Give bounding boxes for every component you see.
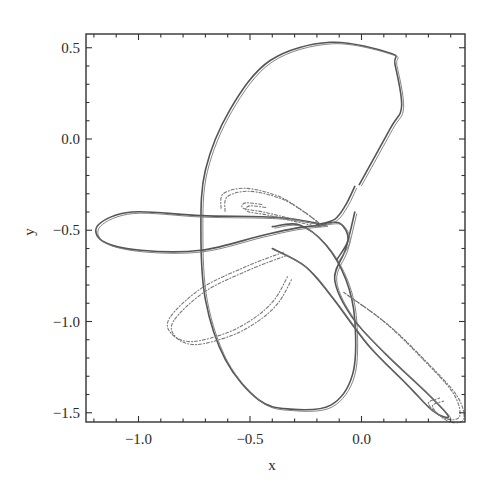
x-axis-label: x bbox=[268, 457, 276, 473]
y-tick-label: −1.0 bbox=[53, 314, 80, 330]
attractor-plot: −1.0−0.50.00.50.0−0.5−1.0−1.5 x y bbox=[0, 0, 488, 498]
x-tick-label: −0.5 bbox=[236, 431, 263, 447]
y-tick-label: 0.5 bbox=[61, 40, 80, 56]
y-tick-label: 0.0 bbox=[61, 131, 80, 147]
x-tick-label: −1.0 bbox=[125, 431, 152, 447]
y-tick-label: −0.5 bbox=[53, 222, 80, 238]
y-tick-label: −1.5 bbox=[53, 405, 80, 421]
x-tick-label: 0.0 bbox=[352, 431, 371, 447]
y-axis-label: y bbox=[21, 228, 37, 236]
